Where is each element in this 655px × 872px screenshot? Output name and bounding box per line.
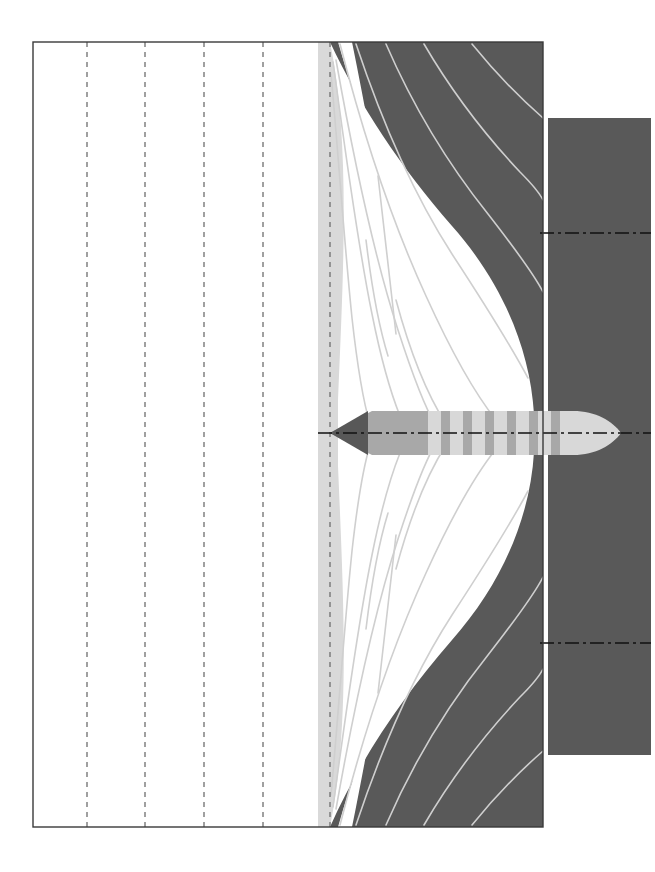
- flow-field-diagram: [0, 0, 655, 872]
- figure-root: Axisymmetric flow-field contour plot aro…: [0, 0, 655, 872]
- left-white-mask: [33, 42, 318, 827]
